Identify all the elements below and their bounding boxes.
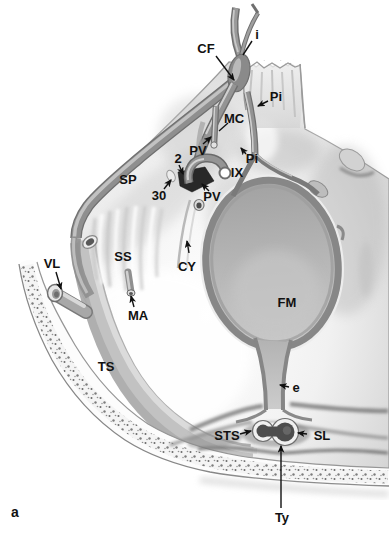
leader-sl: [298, 433, 307, 434]
label-i: i: [255, 27, 259, 42]
label-e: e: [292, 380, 299, 395]
saccus-dumbbell: [253, 419, 299, 446]
label-sts: STS: [214, 428, 240, 443]
label-pv-lower: PV: [203, 189, 221, 204]
label-ss: SS: [114, 249, 132, 264]
label-ty: Ty: [275, 510, 290, 525]
label-ts: TS: [98, 359, 115, 374]
panel-letter: a: [11, 504, 19, 520]
label-ma: MA: [128, 308, 149, 323]
label-2: 2: [174, 151, 181, 166]
label-mc: MC: [224, 111, 245, 126]
label-fm: FM: [278, 295, 297, 310]
label-sl: SL: [314, 428, 331, 443]
label-pi-lower: Pi: [246, 151, 258, 166]
label-cy: CY: [178, 259, 196, 274]
label-cf: CF: [197, 41, 214, 56]
label-pi-upper: Pi: [270, 89, 282, 104]
label-30: 30: [152, 188, 166, 203]
label-sp: SP: [119, 172, 137, 187]
label-ix: IX: [231, 165, 244, 180]
label-vl: VL: [44, 256, 61, 271]
illustration-canvas: CF i Pi MC PV 2 Pi SP IX 30 PV SS CY VL …: [0, 0, 389, 538]
anatomical-figure: CF i Pi MC PV 2 Pi SP IX 30 PV SS CY VL …: [0, 0, 389, 538]
label-pv-upper: PV: [189, 143, 207, 158]
